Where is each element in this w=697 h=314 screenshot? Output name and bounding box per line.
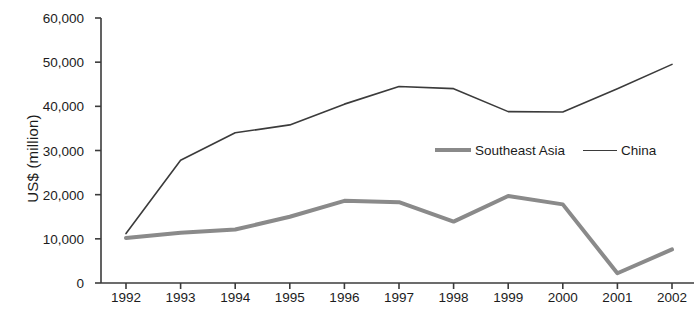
legend-line-swatch-icon	[583, 150, 617, 152]
legend-item-label: Southeast Asia	[475, 143, 565, 158]
chart-legend: Southeast AsiaChina	[435, 142, 674, 158]
series-line-southeast-asia	[126, 196, 672, 273]
line-chart: US$ (million) 60,00050,00040,00030,00020…	[0, 0, 697, 314]
legend-item[interactable]: China	[583, 142, 656, 158]
legend-item[interactable]: Southeast Asia	[435, 142, 565, 158]
legend-item-label: China	[621, 143, 656, 158]
legend-line-swatch-icon	[435, 148, 471, 152]
